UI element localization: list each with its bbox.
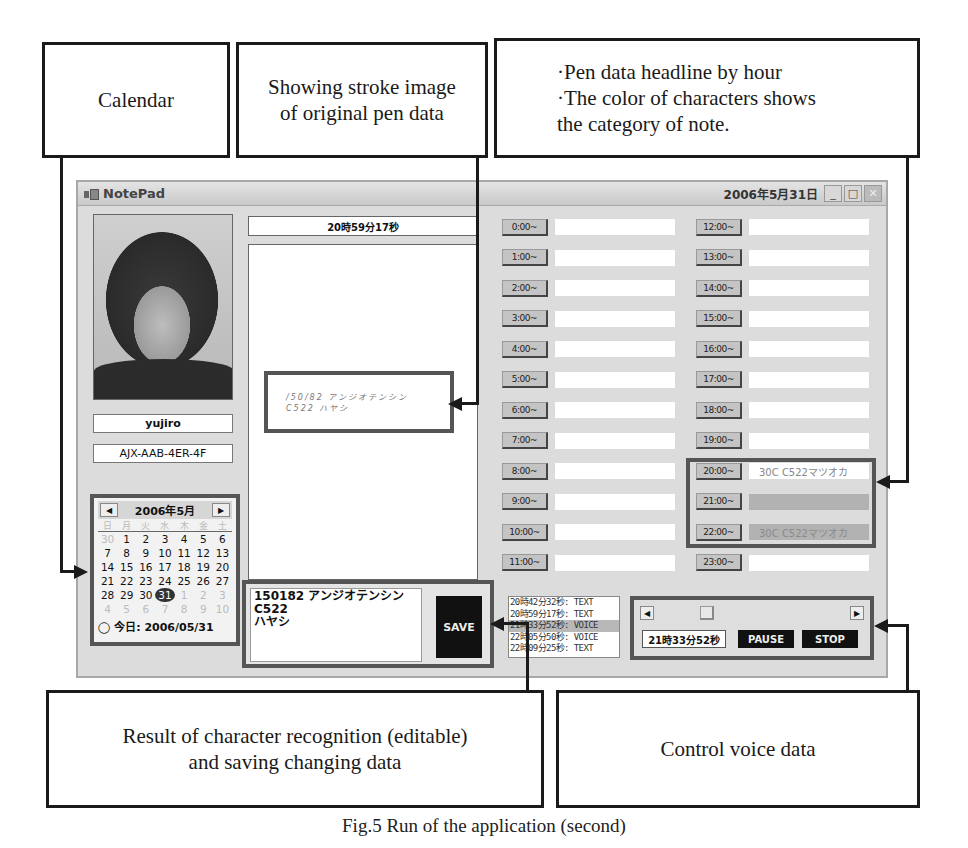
calendar-day[interactable]: 28	[98, 588, 117, 602]
hour-button[interactable]: 4:00~	[502, 341, 548, 358]
calendar-day[interactable]: 30	[98, 532, 117, 546]
hour-headline-field[interactable]	[555, 219, 675, 235]
minimize-button[interactable]: _	[824, 185, 842, 202]
calendar-next-button[interactable]: ▶	[212, 503, 230, 517]
calendar-day[interactable]: 9	[136, 546, 155, 560]
hour-headline-field[interactable]	[555, 311, 675, 327]
calendar-day[interactable]: 2	[136, 532, 155, 546]
save-button[interactable]: SAVE	[436, 596, 482, 658]
hour-headline-field[interactable]	[555, 280, 675, 296]
calendar-day[interactable]: 10	[155, 546, 174, 560]
calendar-day[interactable]: 27	[213, 574, 232, 588]
hour-headline-field[interactable]	[749, 341, 869, 357]
hour-headline-field[interactable]	[749, 311, 869, 327]
calendar-prev-button[interactable]: ◀	[100, 503, 118, 517]
hour-button[interactable]: 10:00~	[502, 524, 548, 541]
hour-button[interactable]: 17:00~	[696, 371, 742, 388]
hour-headline-field[interactable]	[555, 372, 675, 388]
calendar-day[interactable]: 15	[117, 560, 136, 574]
calendar-day[interactable]: 20	[213, 560, 232, 574]
calendar-day[interactable]: 4	[175, 532, 194, 546]
close-button[interactable]: ✕	[864, 185, 882, 202]
calendar-day[interactable]: 29	[117, 588, 136, 602]
hour-button[interactable]: 6:00~	[502, 402, 548, 419]
hour-button[interactable]: 5:00~	[502, 371, 548, 388]
hour-headline-field[interactable]	[555, 402, 675, 418]
calendar-day[interactable]: 11	[175, 546, 194, 560]
hour-headline-field[interactable]	[555, 555, 675, 571]
recognition-text-field[interactable]: 150182 アンジオテンシンC522 ハヤシ	[250, 588, 422, 662]
calendar-day[interactable]: 31	[155, 588, 174, 602]
calendar-day[interactable]: 13	[213, 546, 232, 560]
calendar-day[interactable]: 5	[117, 602, 136, 616]
calendar-day[interactable]: 8	[175, 602, 194, 616]
hour-button[interactable]: 7:00~	[502, 432, 548, 449]
calendar-day[interactable]: 5	[194, 532, 213, 546]
hour-headline-field[interactable]	[749, 280, 869, 296]
calendar-day[interactable]: 6	[213, 532, 232, 546]
calendar-day[interactable]: 8	[117, 546, 136, 560]
hour-headline-field[interactable]	[749, 402, 869, 418]
calendar-day[interactable]: 10	[213, 602, 232, 616]
calendar-day[interactable]: 7	[98, 546, 117, 560]
calendar-day[interactable]: 2	[194, 588, 213, 602]
hour-headline-field[interactable]	[749, 219, 869, 235]
hour-button[interactable]: 0:00~	[502, 219, 548, 236]
hour-headline-field[interactable]	[555, 494, 675, 510]
calendar-day[interactable]: 12	[194, 546, 213, 560]
calendar-day[interactable]: 19	[194, 560, 213, 574]
hour-headline-field[interactable]	[555, 433, 675, 449]
hour-button[interactable]: 11:00~	[502, 554, 548, 571]
calendar-day[interactable]: 4	[98, 602, 117, 616]
calendar-day[interactable]: 7	[155, 602, 174, 616]
calendar-day[interactable]: 3	[155, 532, 174, 546]
title-bar[interactable]: NotePad 2006年5月31日 _ □ ✕	[78, 182, 886, 206]
hour-button[interactable]: 18:00~	[696, 402, 742, 419]
calendar-day[interactable]: 23	[136, 574, 155, 588]
calendar-day[interactable]: 18	[175, 560, 194, 574]
calendar-day[interactable]: 24	[155, 574, 174, 588]
hour-headline-field[interactable]	[749, 433, 869, 449]
hour-button[interactable]: 15:00~	[696, 310, 742, 327]
scroll-left-button[interactable]: ◀	[640, 606, 654, 620]
voice-seek-track[interactable]	[656, 606, 848, 620]
hour-button[interactable]: 19:00~	[696, 432, 742, 449]
hour-button[interactable]: 3:00~	[502, 310, 548, 327]
hour-headline-field[interactable]	[555, 250, 675, 266]
stop-button[interactable]: STOP	[802, 630, 858, 648]
maximize-button[interactable]: □	[844, 185, 862, 202]
hour-headline-field[interactable]	[749, 555, 869, 571]
hour-button[interactable]: 2:00~	[502, 280, 548, 297]
scroll-right-button[interactable]: ▶	[850, 606, 864, 620]
calendar-today-link[interactable]: ◯ 今日: 2006/05/31	[98, 618, 232, 634]
hour-button[interactable]: 16:00~	[696, 341, 742, 358]
hour-headline-field[interactable]	[555, 463, 675, 479]
voice-seek-thumb[interactable]	[700, 606, 714, 620]
calendar-day[interactable]: 26	[194, 574, 213, 588]
calendar-day[interactable]: 25	[175, 574, 194, 588]
calendar-day[interactable]: 9	[194, 602, 213, 616]
hour-button[interactable]: 14:00~	[696, 280, 742, 297]
calendar-day[interactable]: 30	[136, 588, 155, 602]
calendar-day[interactable]: 17	[155, 560, 174, 574]
log-item[interactable]: 20時42分32秒: TEXT	[509, 597, 619, 609]
calendar-day[interactable]: 16	[136, 560, 155, 574]
hour-button[interactable]: 12:00~	[696, 219, 742, 236]
calendar-day[interactable]: 1	[175, 588, 194, 602]
hour-headline-field[interactable]	[555, 341, 675, 357]
hour-headline-field[interactable]	[555, 524, 675, 540]
hour-button[interactable]: 13:00~	[696, 249, 742, 266]
calendar-day[interactable]: 22	[117, 574, 136, 588]
hour-headline-field[interactable]	[749, 372, 869, 388]
hour-button[interactable]: 8:00~	[502, 463, 548, 480]
hour-button[interactable]: 23:00~	[696, 554, 742, 571]
calendar-day[interactable]: 21	[98, 574, 117, 588]
hour-headline-field[interactable]	[749, 250, 869, 266]
calendar-day[interactable]: 6	[136, 602, 155, 616]
calendar-day[interactable]: 3	[213, 588, 232, 602]
calendar-day[interactable]: 1	[117, 532, 136, 546]
pause-button[interactable]: PAUSE	[738, 630, 794, 648]
hour-button[interactable]: 1:00~	[502, 249, 548, 266]
hour-button[interactable]: 9:00~	[502, 493, 548, 510]
log-item[interactable]: 20時59分17秒: TEXT	[509, 609, 619, 621]
